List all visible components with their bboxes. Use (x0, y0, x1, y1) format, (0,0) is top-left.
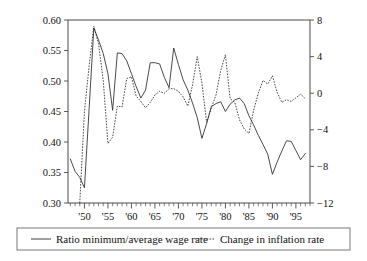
left-tick-label: 0.35 (43, 167, 61, 178)
right-tick-label: −4 (317, 124, 329, 135)
x-tick-label: '90 (266, 211, 278, 222)
right-tick-label: 8 (317, 15, 322, 26)
x-tick-label: '75 (196, 211, 208, 222)
dual-axis-line-chart: 0.300.350.400.450.500.550.60 −12−8−4048 … (0, 0, 367, 261)
x-tick-label: '80 (219, 211, 231, 222)
left-tick-label: 0.50 (43, 76, 61, 87)
left-tick-label: 0.55 (43, 45, 61, 56)
x-tick-label: '55 (102, 211, 114, 222)
left-tick-label: 0.40 (43, 137, 61, 148)
x-tick-label: '60 (125, 211, 137, 222)
left-tick-label: 0.60 (43, 15, 61, 26)
chart-figure: 0.300.350.400.450.500.550.60 −12−8−4048 … (0, 0, 367, 261)
right-tick-label: −8 (317, 161, 328, 172)
right-tick-label: −12 (317, 198, 333, 209)
right-tick-label: 0 (317, 88, 322, 99)
legend-label: Ratio minimum/average wage rate (56, 233, 208, 245)
x-tick-label: '95 (290, 211, 302, 222)
left-tick-label: 0.30 (43, 198, 61, 209)
x-tick-label: '70 (172, 211, 184, 222)
x-tick-label: '85 (243, 211, 255, 222)
x-tick-label: '65 (149, 211, 161, 222)
legend-label: Change in inflation rate (220, 233, 324, 245)
left-tick-label: 0.45 (43, 106, 61, 117)
right-tick-label: 4 (317, 51, 323, 62)
x-tick-label: '50 (78, 211, 90, 222)
